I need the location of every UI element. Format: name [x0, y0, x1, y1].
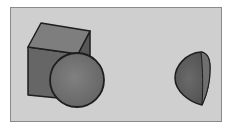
sphere — [50, 53, 104, 107]
half-sphere-flat-face — [201, 52, 210, 105]
scene-canvas — [0, 0, 234, 129]
half-sphere — [175, 52, 210, 105]
